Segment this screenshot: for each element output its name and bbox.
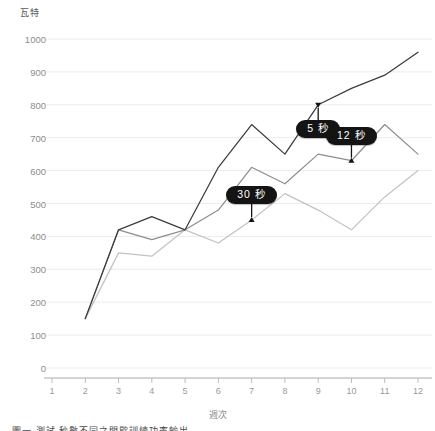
x-axis-title: 週次 <box>0 408 435 421</box>
figure-caption-text: 圖一 測試 秒數不同之間歇訓練功率輸出 <box>0 424 435 431</box>
x-tick-label: 10 <box>346 386 356 396</box>
x-tick-label: 2 <box>83 386 88 396</box>
x-tick-label: 9 <box>316 386 321 396</box>
axis-lines <box>44 378 432 383</box>
annotation-pill-12秒[interactable]: 12 秒 <box>326 127 377 146</box>
x-tick-label: 1 <box>49 386 54 396</box>
x-tick-label: 7 <box>249 386 254 396</box>
x-tick-label: 12 <box>413 386 423 396</box>
x-tick-label: 3 <box>116 386 121 396</box>
x-tick-label: 8 <box>282 386 287 396</box>
x-tick-label: 11 <box>380 386 389 396</box>
x-tick-label: 6 <box>216 386 221 396</box>
annotation-pill-30秒[interactable]: 30 秒 <box>226 186 277 205</box>
figure-caption: 圖一 測試 秒數不同之間歇訓練功率輸出 <box>0 424 435 431</box>
x-tick-label: 4 <box>149 386 154 396</box>
chart-root: 瓦特 10009008007006005004003002001000 1234… <box>0 0 435 431</box>
x-tick-label: 5 <box>183 386 188 396</box>
plot-area <box>0 0 435 431</box>
